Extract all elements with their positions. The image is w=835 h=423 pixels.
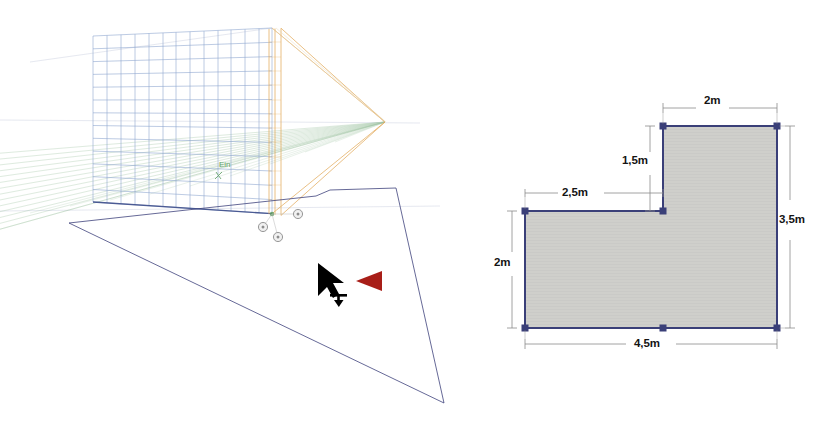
dimension-notch-height-label: 1,5m xyxy=(622,154,648,166)
dimension-left-height-label: 2m xyxy=(494,256,510,268)
grid-edges-orange xyxy=(269,28,385,215)
grip-handle-bottom[interactable] xyxy=(273,232,282,241)
vertex-notch-inner xyxy=(660,208,667,215)
dimension-notch-width-label: 2,5m xyxy=(562,186,588,198)
dimension-notch-height-line xyxy=(645,126,655,211)
scene-vector-layer xyxy=(0,0,835,423)
origin-axis-label: Ein xyxy=(219,160,231,169)
grip-handle-right[interactable] xyxy=(293,209,302,218)
dimension-notch-width-line xyxy=(525,189,663,209)
arrow-pointer-icon xyxy=(318,263,344,298)
dimension-right-height-label: 3,5m xyxy=(779,213,805,225)
dimension-top-width-line xyxy=(663,103,777,124)
screenshot-canvas: Ein 2m 1,5m 2,5m 3,5m 2m 4,5m xyxy=(0,0,835,423)
dimension-right-height-line xyxy=(779,126,795,328)
ground-plane-green-crosslines xyxy=(0,122,385,232)
perspective-viewport-group[interactable] xyxy=(0,28,444,403)
floor-plan-shape[interactable] xyxy=(525,126,777,328)
horizon-guide-lines xyxy=(0,28,440,211)
push-pull-tool-indicator-icon xyxy=(330,294,347,307)
grip-handle-left[interactable] xyxy=(258,222,267,231)
dimension-left-height-line xyxy=(507,211,517,328)
vertex-bottom-mid xyxy=(660,325,667,332)
l-shaped-floor-plan-group[interactable] xyxy=(507,103,795,349)
dimension-bottom-width-label: 4,5m xyxy=(634,337,660,349)
dimension-top-width-label: 2m xyxy=(704,94,720,106)
selection-polygon-outline[interactable] xyxy=(69,188,444,403)
push-pull-cursor xyxy=(318,263,347,307)
